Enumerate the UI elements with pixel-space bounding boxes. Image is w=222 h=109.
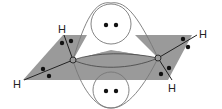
diagram-svg: H H H H	[0, 0, 222, 109]
label-h-right: H	[199, 28, 207, 40]
electrons-top-lobe	[104, 23, 118, 27]
label-h-left: H	[13, 78, 21, 90]
electrons-bottom-lobe	[104, 89, 118, 93]
carbon-left-node	[70, 57, 76, 63]
carbon-right-node	[155, 55, 161, 61]
label-h-top-left: H	[58, 23, 66, 35]
label-h-bottom-right: H	[168, 82, 176, 94]
ethylene-orbital-diagram: H H H H	[0, 0, 222, 109]
